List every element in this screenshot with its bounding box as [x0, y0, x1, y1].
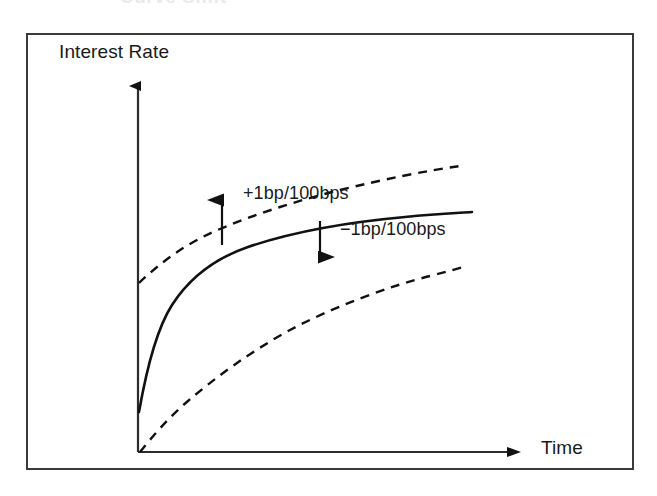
- caption-text: Curve Shift: [120, 0, 227, 8]
- shift-down-label: −1bp/100bps: [340, 219, 446, 240]
- x-axis-label: Time: [541, 437, 583, 459]
- cropped-caption-strip: Curve Shift: [0, 0, 657, 16]
- curve-shift-figure: Curve Shift: [0, 0, 657, 496]
- y-axis-label: Interest Rate: [59, 41, 169, 63]
- shift-up-label: +1bp/100bps: [243, 183, 349, 204]
- figure-border: [26, 33, 634, 470]
